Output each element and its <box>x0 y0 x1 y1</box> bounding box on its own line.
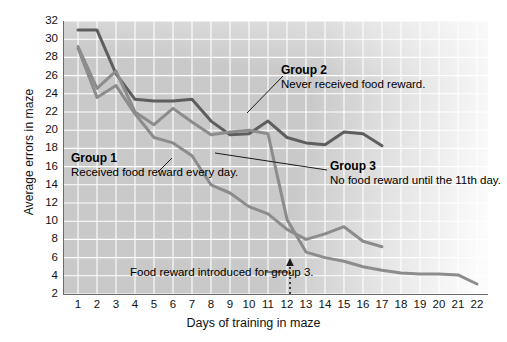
annotation-group3-title: Group 3 <box>330 160 501 174</box>
y-tick-label: 32 <box>32 15 58 27</box>
x-tick-label: 16 <box>353 298 373 310</box>
x-tick-label: 8 <box>201 298 221 310</box>
y-tick-label: 8 <box>32 233 58 245</box>
x-tick-label: 6 <box>163 298 183 310</box>
x-tick-label: 15 <box>334 298 354 310</box>
y-axis-ticks: 2468101214161820222426283032 <box>30 0 58 342</box>
y-tick-label: 18 <box>32 142 58 154</box>
x-tick-label: 5 <box>144 298 164 310</box>
y-axis-line <box>63 21 64 295</box>
chart-figure: Average errors in maze 24681012141618202… <box>0 0 507 342</box>
x-tick-label: 2 <box>87 298 107 310</box>
x-tick-label: 21 <box>448 298 468 310</box>
y-tick-label: 12 <box>32 197 58 209</box>
x-axis-ticks: 12345678910111213141516171819202122 <box>0 298 507 314</box>
annotation-group2-body: Never received food reward. <box>281 78 425 92</box>
y-tick-label: 30 <box>32 33 58 45</box>
y-tick-label: 10 <box>32 215 58 227</box>
annotation-group1-body: Received food reward every day. <box>71 166 238 180</box>
x-tick-label: 9 <box>220 298 240 310</box>
y-tick-label: 16 <box>32 161 58 173</box>
x-tick-label: 19 <box>410 298 430 310</box>
annotation-group3: Group 3 No food reward until the 11th da… <box>330 160 501 187</box>
y-tick-label: 4 <box>32 270 58 282</box>
annotation-marker-body: Food reward introduced for group 3. <box>130 266 313 280</box>
y-axis-title-wrapper: Average errors in maze <box>0 0 30 342</box>
annotation-group2-title: Group 2 <box>281 64 425 78</box>
x-tick-label: 13 <box>296 298 316 310</box>
annotation-group3-body: No food reward until the 11th day. <box>330 174 501 188</box>
annotation-group2: Group 2 Never received food reward. <box>281 64 425 91</box>
annotation-food-reward-marker: Food reward introduced for group 3. <box>130 266 313 280</box>
x-tick-label: 11 <box>258 298 278 310</box>
x-tick-label: 20 <box>429 298 449 310</box>
y-tick-label: 20 <box>32 124 58 136</box>
y-tick-label: 24 <box>32 88 58 100</box>
y-tick-label: 26 <box>32 70 58 82</box>
annotation-group1-title: Group 1 <box>71 152 238 166</box>
y-tick-label: 28 <box>32 51 58 63</box>
x-axis-line <box>63 294 488 295</box>
x-tick-label: 1 <box>68 298 88 310</box>
x-tick-label: 17 <box>372 298 392 310</box>
y-tick-label: 6 <box>32 252 58 264</box>
x-tick-label: 7 <box>182 298 202 310</box>
x-tick-label: 22 <box>467 298 487 310</box>
annotation-group1: Group 1 Received food reward every day. <box>71 152 238 179</box>
x-tick-label: 18 <box>391 298 411 310</box>
x-tick-label: 10 <box>239 298 259 310</box>
x-tick-label: 14 <box>315 298 335 310</box>
x-tick-label: 4 <box>125 298 145 310</box>
y-tick-label: 22 <box>32 106 58 118</box>
y-tick-label: 14 <box>32 179 58 191</box>
x-tick-label: 12 <box>277 298 297 310</box>
x-axis-title: Days of training in maze <box>0 316 507 330</box>
x-tick-label: 3 <box>106 298 126 310</box>
